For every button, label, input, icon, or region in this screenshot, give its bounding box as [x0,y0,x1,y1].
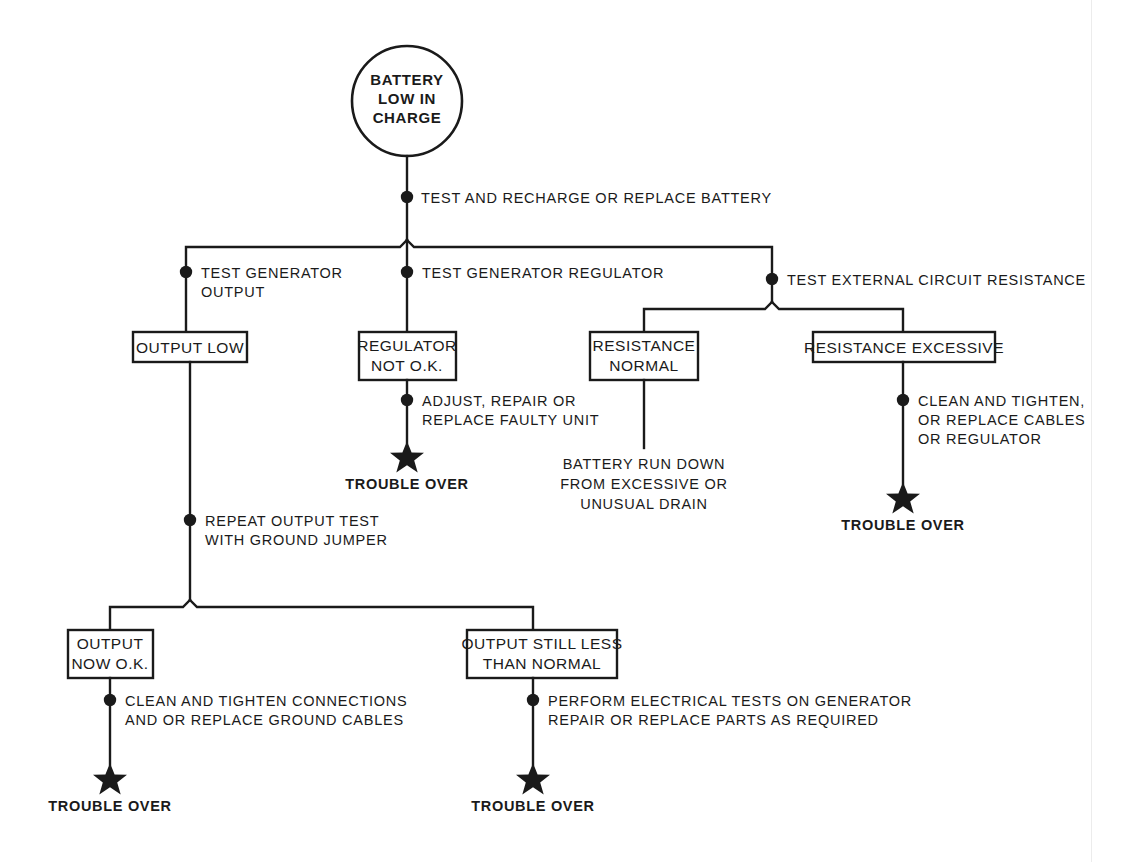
start-node-line-1: BATTERY [370,71,443,88]
step-adjust-repair-line-2: REPLACE FAULTY UNIT [422,412,599,428]
terminal-battery-run-down-line-2: FROM EXCESSIVE OR [560,476,727,492]
box-resistance-excessive-line-1: RESISTANCE EXCESSIVE [804,339,1004,356]
bullet-recharge [401,191,413,203]
bullet-adjust-repair [401,394,413,406]
bullet-clean-tighten-connections [104,694,116,706]
box-regulator-not-ok-line-1: REGULATOR [357,337,457,354]
terminal-trouble-over-regulator: TROUBLE OVER [345,476,469,492]
step-repeat-output-test-line-2: WITH GROUND JUMPER [205,532,388,548]
edge-repeat-split-left [110,600,190,630]
bullet-test-generator-output [180,266,192,278]
box-output-still-less-line-1: OUTPUT STILL LESS [462,635,623,652]
edge-resistance-split-right [772,302,903,332]
step-test-generator-output-line-1: TEST GENERATOR [201,265,343,281]
bullet-perform-electrical-tests [527,694,539,706]
terminal-trouble-over-output-ok: TROUBLE OVER [48,798,172,814]
box-regulator-not-ok-line-2: NOT O.K. [371,357,443,374]
step-perform-electrical-tests-line-2: REPAIR OR REPLACE PARTS AS REQUIRED [548,712,879,728]
step-clean-tighten-cables-line-2: OR REPLACE CABLES [918,412,1085,428]
step-clean-tighten-cables-line-3: OR REGULATOR [918,431,1042,447]
star-icon-trouble-over-output-ok [93,763,127,795]
box-resistance-normal-line-1: RESISTANCE [593,337,696,354]
step-repeat-output-test-line-1: REPEAT OUTPUT TEST [205,513,379,529]
box-output-now-ok-line-1: OUTPUT [77,635,144,652]
start-node-line-3: CHARGE [373,109,442,126]
step-clean-tighten-connections-line-2: AND OR REPLACE GROUND CABLES [125,712,404,728]
box-output-still-less-line-2: THAN NORMAL [483,655,601,672]
terminal-trouble-over-resistance: TROUBLE OVER [841,517,965,533]
step-test-external-resistance-label: TEST EXTERNAL CIRCUIT RESISTANCE [787,272,1086,288]
star-icon-trouble-over-resistance [886,482,920,514]
terminal-trouble-over-output-less: TROUBLE OVER [471,798,595,814]
box-output-low-line-1: OUTPUT LOW [136,339,244,356]
step-perform-electrical-tests-line-1: PERFORM ELECTRICAL TESTS ON GENERATOR [548,693,912,709]
edge-resistance-split-left [644,302,772,332]
edge-repeat-split-right [190,600,533,630]
step-adjust-repair-line-1: ADJUST, REPAIR OR [422,393,576,409]
bullet-clean-tighten-cables [897,394,909,406]
star-icon-trouble-over-output-less [516,763,550,795]
flowchart-page: BATTERY LOW IN CHARGE TEST AND RECHARGE … [0,0,1122,862]
terminal-battery-run-down-line-1: BATTERY RUN DOWN [563,456,726,472]
bullet-test-generator-regulator [401,266,413,278]
step-clean-tighten-connections-line-1: CLEAN AND TIGHTEN CONNECTIONS [125,693,408,709]
step-test-generator-output-line-2: OUTPUT [201,284,265,300]
step-test-generator-regulator-label: TEST GENERATOR REGULATOR [422,265,664,281]
box-resistance-normal-line-2: NORMAL [609,357,678,374]
flowchart-canvas: BATTERY LOW IN CHARGE TEST AND RECHARGE … [0,0,1122,862]
step-clean-tighten-cables-line-1: CLEAN AND TIGHTEN, [918,393,1085,409]
start-node-line-2: LOW IN [378,90,436,107]
box-output-now-ok-line-2: NOW O.K. [71,655,148,672]
terminal-battery-run-down-line-3: UNUSUAL DRAIN [580,496,708,512]
star-icon-trouble-over-regulator [390,441,424,473]
step-recharge-label: TEST AND RECHARGE OR REPLACE BATTERY [421,190,772,206]
bullet-repeat-output-test [184,514,196,526]
bullet-test-external-resistance [766,273,778,285]
